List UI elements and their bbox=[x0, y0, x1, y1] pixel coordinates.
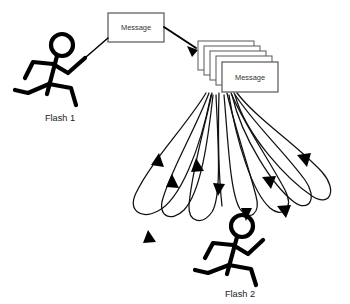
loop-arrowhead-8 bbox=[297, 153, 311, 167]
loop-arrowhead-2b bbox=[166, 174, 179, 188]
loop-arrowhead-6 bbox=[262, 176, 276, 189]
sender-to-message-connector bbox=[86, 38, 108, 57]
sender-front-leg bbox=[49, 84, 76, 105]
loop-arrowhead-4 bbox=[213, 183, 225, 196]
sender-head-icon bbox=[51, 34, 73, 56]
sender-back-leg bbox=[15, 84, 49, 93]
loop-arrowhead-7 bbox=[277, 205, 291, 218]
sender-figure: Flash 1 bbox=[15, 34, 85, 123]
sender-label: Flash 1 bbox=[45, 113, 75, 123]
sender-back-arm bbox=[25, 62, 53, 78]
source-message-box: Message bbox=[108, 13, 164, 42]
loop-path-8 bbox=[235, 93, 331, 200]
loop-path-6 bbox=[229, 93, 288, 212]
receiver-label: Flash 2 bbox=[225, 289, 255, 299]
stack-front-label: Message bbox=[235, 73, 265, 82]
loop-path-7 bbox=[232, 93, 311, 206]
message-to-stack-connector bbox=[164, 27, 196, 48]
diagram-canvas: Flash 1 Message Message bbox=[0, 0, 350, 304]
loop-arrowhead-2 bbox=[143, 230, 156, 243]
diagram-svg: Flash 1 Message Message bbox=[0, 0, 350, 304]
source-message-label: Message bbox=[121, 23, 151, 32]
receiver-front-leg bbox=[229, 265, 256, 285]
loop-path-1 bbox=[133, 93, 211, 214]
receiver-back-leg bbox=[195, 265, 229, 273]
loop-arrowhead-1 bbox=[151, 153, 164, 167]
receiver-back-arm bbox=[205, 243, 233, 258]
receiver-head-icon bbox=[231, 215, 253, 237]
receiver-figure: Flash 2 bbox=[195, 215, 263, 299]
loop-path-2 bbox=[162, 93, 213, 217]
message-stack: Message bbox=[198, 41, 278, 92]
